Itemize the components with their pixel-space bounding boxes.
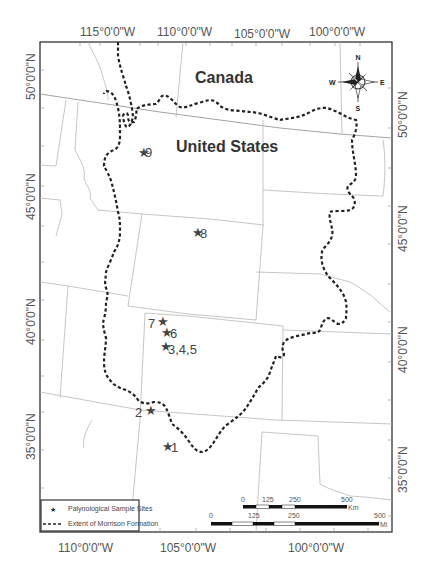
- longitude-label-top: 100°0'0"W: [309, 25, 366, 39]
- latitude-label-right: 40°0'0"N: [396, 326, 410, 373]
- map: 115°0'0"W 110°0'0"W 105°0'0"W 100°0'0"W …: [0, 0, 437, 569]
- sample-site: ★ 1: [162, 439, 178, 455]
- map-frame: [40, 42, 392, 532]
- country-label-canada: Canada: [195, 69, 253, 86]
- compass-south-label: S: [356, 105, 361, 112]
- compass-north-label: N: [356, 54, 361, 61]
- scale-tick: 0: [241, 496, 245, 503]
- scale-tick: 250: [288, 512, 300, 519]
- longitude-label-bottom: 100°0'0"W: [288, 541, 345, 555]
- latitude-label-left: 50°0'0"N: [24, 53, 38, 100]
- sample-site: 2 ★: [135, 403, 157, 420]
- legend-label-morrison: Extent of Morrison Formation: [68, 520, 158, 527]
- longitude-label-bottom: 110°0'0"W: [58, 541, 114, 555]
- latitude-label-right: 35°0'0"N: [396, 446, 410, 493]
- longitude-label-top: 115°0'0"W: [80, 25, 136, 39]
- legend-star-icon: ★: [50, 506, 56, 513]
- longitude-label-top: 110°0'0"W: [157, 25, 213, 39]
- compass-west-label: W: [329, 79, 336, 86]
- scale-tick: 500: [374, 512, 386, 519]
- sample-site: ★ 8: [192, 225, 207, 241]
- scale-unit-mi: Mi: [380, 521, 388, 528]
- scale-tick: 125: [262, 496, 274, 503]
- compass-east-label: E: [380, 79, 385, 86]
- latitude-label-left: 35°0'0"N: [24, 413, 38, 460]
- latitude-label-right: 45°0'0"N: [396, 205, 410, 252]
- site-label: 9: [145, 145, 152, 160]
- legend-label-sites: Palynological Sample Sites: [68, 505, 153, 513]
- site-label: 8: [200, 226, 207, 241]
- scale-tick: 500: [341, 496, 353, 503]
- latitude-label-right: 50°0'0"N: [396, 91, 410, 138]
- site-star-icon: ★: [145, 403, 157, 418]
- country-label-united-states: United States: [176, 138, 278, 155]
- site-label: 7: [148, 316, 155, 331]
- latitude-label-left: 40°0'0"N: [24, 298, 38, 345]
- latitude-label-left: 45°0'0"N: [24, 173, 38, 220]
- scale-tick: 0: [209, 512, 213, 519]
- scale-unit-km: Km: [348, 504, 359, 511]
- longitude-label-top: 105°0'0"W: [234, 27, 291, 41]
- longitude-label-bottom: 105°0'0"W: [160, 541, 217, 555]
- site-label: 3,4,5: [168, 342, 197, 357]
- scale-tick: 250: [289, 496, 301, 503]
- site-label: 2: [135, 405, 142, 420]
- sample-site: ★ 9: [138, 145, 152, 160]
- site-label: 1: [171, 440, 178, 455]
- scale-tick: 125: [248, 512, 260, 519]
